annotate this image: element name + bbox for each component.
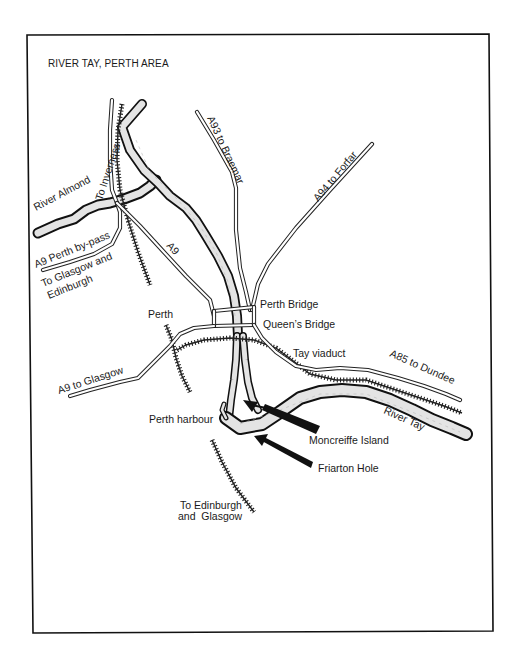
- label-tay-viaduct: Tay viaduct: [293, 347, 346, 359]
- label-friarton-hole: Friarton Hole: [318, 462, 379, 474]
- map-figure: RIVER TAY, PERTH AREA: [0, 0, 519, 665]
- label-a85: A85 to Dundee: [388, 347, 457, 387]
- friarton-arrow: [254, 434, 313, 468]
- label-perth: Perth: [148, 308, 173, 320]
- road-a94: [252, 144, 372, 310]
- label-a93: A93 to Braemar: [205, 114, 247, 186]
- map-canvas: RIVER TAY, PERTH AREA: [0, 0, 519, 665]
- map-title: RIVER TAY, PERTH AREA: [48, 58, 169, 69]
- label-a94: A94 to Forfar: [310, 148, 359, 203]
- label-moncreiffe-island: Moncreiffe Island: [309, 434, 389, 446]
- label-queens-bridge: Queen’s Bridge: [263, 318, 335, 330]
- label-perth-harbour: Perth harbour: [149, 413, 214, 425]
- label-perth-bridge: Perth Bridge: [260, 298, 319, 310]
- label-to-edinburgh-glasgow-line2: and Glasgow: [178, 510, 243, 522]
